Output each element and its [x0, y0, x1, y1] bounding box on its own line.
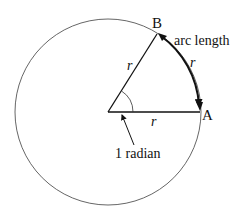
label-angle: 1 radian	[115, 146, 160, 161]
label-arc-length: arc length	[174, 33, 230, 48]
label-r-ob: r	[127, 58, 133, 73]
label-r-oa: r	[151, 114, 157, 129]
label-b: B	[152, 15, 162, 31]
angle-pointer	[122, 115, 134, 145]
angle-arc	[122, 91, 134, 112]
radius-ob	[108, 34, 157, 112]
radian-diagram: B A arc length r r r 1 radian	[0, 0, 244, 215]
label-r-arc: r	[190, 55, 196, 70]
label-a: A	[202, 107, 213, 123]
